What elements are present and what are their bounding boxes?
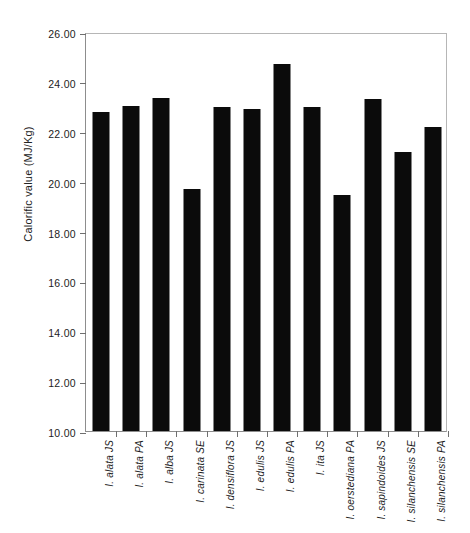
y-axis-tick: 14.00 <box>48 327 86 339</box>
bar[interactable] <box>243 109 260 431</box>
bar[interactable] <box>274 64 291 431</box>
bar-slot <box>358 34 388 431</box>
bar[interactable] <box>213 107 230 431</box>
x-axis-label: I. carinata SE <box>195 440 206 503</box>
x-axis-tick-mark <box>357 431 358 437</box>
calorific-value-bar-chart: Calorific value (MJ/Kg) 26.0024.0022.002… <box>0 0 470 533</box>
y-axis-tick-label: 20.00 <box>48 178 80 190</box>
y-axis-tick-label: 18.00 <box>48 228 80 240</box>
y-axis-tick: 18.00 <box>48 228 86 240</box>
x-axis-label: I. silanchensis SE <box>406 440 417 523</box>
x-axis-label: I. alata PA <box>134 440 145 488</box>
y-axis-tick: 10.00 <box>48 427 86 439</box>
x-axis-tick-mark <box>146 431 147 437</box>
x-axis-tick-mark <box>448 431 449 437</box>
bar[interactable] <box>153 98 170 431</box>
y-axis-tick: 26.00 <box>48 28 86 40</box>
bar-slot <box>297 34 327 431</box>
bars-layer <box>86 34 446 431</box>
y-axis-tick-mark <box>80 433 86 434</box>
bar-slot <box>177 34 207 431</box>
bar-slot <box>116 34 146 431</box>
bar-slot <box>327 34 357 431</box>
x-axis-tick-mark <box>176 431 177 437</box>
x-axis-label: I. alata JS <box>104 440 115 487</box>
bar[interactable] <box>424 127 441 431</box>
x-axis-label: I. edulis PA <box>285 440 296 492</box>
y-axis-title: Calorific value (MJ/Kg) <box>22 84 34 284</box>
x-axis-label: I. oerstediana PA <box>345 440 356 519</box>
x-axis-label: I. sapindoides JS <box>376 440 387 520</box>
y-axis-tick-label: 24.00 <box>48 78 80 90</box>
x-axis-label: I. silanchensis PA <box>436 440 447 522</box>
plot-area: 26.0024.0022.0020.0018.0016.0014.0012.00… <box>85 33 447 432</box>
bar[interactable] <box>364 99 381 431</box>
y-axis-tick: 22.00 <box>48 128 86 140</box>
y-axis-tick: 20.00 <box>48 178 86 190</box>
bar[interactable] <box>304 107 321 431</box>
x-axis-tick-mark <box>237 431 238 437</box>
y-axis-tick: 24.00 <box>48 78 86 90</box>
y-axis-tick-label: 10.00 <box>48 427 80 439</box>
bar-slot <box>237 34 267 431</box>
x-axis-label: I. edulis JS <box>255 440 266 491</box>
y-axis-tick-label: 14.00 <box>48 327 80 339</box>
bar-slot <box>388 34 418 431</box>
y-axis-tick: 12.00 <box>48 377 86 389</box>
x-axis-tick-mark <box>267 431 268 437</box>
bar[interactable] <box>93 112 110 431</box>
bar[interactable] <box>123 106 140 431</box>
y-axis-tick-label: 26.00 <box>48 28 80 40</box>
bar[interactable] <box>183 189 200 431</box>
x-axis-label: I. ita JS <box>315 440 326 475</box>
x-axis-tick-mark <box>388 431 389 437</box>
x-axis-tick-mark <box>207 431 208 437</box>
x-axis-tick-mark <box>418 431 419 437</box>
x-axis-tick-mark <box>116 431 117 437</box>
x-axis-tick-mark <box>327 431 328 437</box>
bar[interactable] <box>334 195 351 431</box>
bar-slot <box>146 34 176 431</box>
y-axis-tick-label: 16.00 <box>48 277 80 289</box>
x-axis-tick-mark <box>297 431 298 437</box>
y-axis-tick-label: 12.00 <box>48 377 80 389</box>
x-axis-labels: I. alata JSI. alata PAI. alba JSI. carin… <box>85 440 447 533</box>
bar[interactable] <box>394 152 411 431</box>
x-axis-label: I. densiflora JS <box>225 440 236 509</box>
bar-slot <box>86 34 116 431</box>
bar-slot <box>207 34 237 431</box>
bar-slot <box>418 34 448 431</box>
y-axis-tick: 16.00 <box>48 277 86 289</box>
bar-slot <box>267 34 297 431</box>
x-axis-label: I. alba JS <box>164 440 175 484</box>
y-axis-tick-label: 22.00 <box>48 128 80 140</box>
